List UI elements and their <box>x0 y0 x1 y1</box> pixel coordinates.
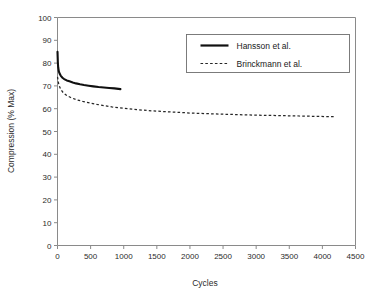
y-tick-label: 40 <box>43 150 52 159</box>
x-tick-label: 0 <box>55 252 60 261</box>
y-tick-label: 100 <box>38 14 52 23</box>
y-tick-label: 50 <box>43 128 52 137</box>
x-tick-label: 500 <box>84 252 98 261</box>
x-tick-label: 4000 <box>313 252 331 261</box>
y-tick-label: 80 <box>43 59 52 68</box>
x-tick-label: 1500 <box>148 252 166 261</box>
x-tick-label: 2000 <box>181 252 199 261</box>
y-tick-label: 90 <box>43 36 52 45</box>
y-axis-title: Compression (% Max) <box>6 89 16 173</box>
legend: Hansson et al.Brinckmann et al. <box>187 35 350 73</box>
x-tick-label: 2500 <box>214 252 232 261</box>
y-tick-label: 70 <box>43 82 52 91</box>
x-tick-label: 3500 <box>280 252 298 261</box>
legend-label: Brinckmann et al. <box>237 59 303 69</box>
line-chart: 0102030405060708090100 05001000150020002… <box>0 0 385 292</box>
y-tick-label: 20 <box>43 196 52 205</box>
y-tick-label: 10 <box>43 219 52 228</box>
x-axis-title: Cycles <box>192 278 218 288</box>
x-tick-label: 1000 <box>115 252 133 261</box>
y-tick-label: 0 <box>47 242 52 251</box>
legend-label: Hansson et al. <box>237 41 291 51</box>
y-tick-label: 60 <box>43 105 52 114</box>
chart-figure: 0102030405060708090100 05001000150020002… <box>0 0 385 292</box>
y-tick-label: 30 <box>43 173 52 182</box>
x-tick-label: 3000 <box>247 252 265 261</box>
x-tick-label: 4500 <box>347 252 365 261</box>
